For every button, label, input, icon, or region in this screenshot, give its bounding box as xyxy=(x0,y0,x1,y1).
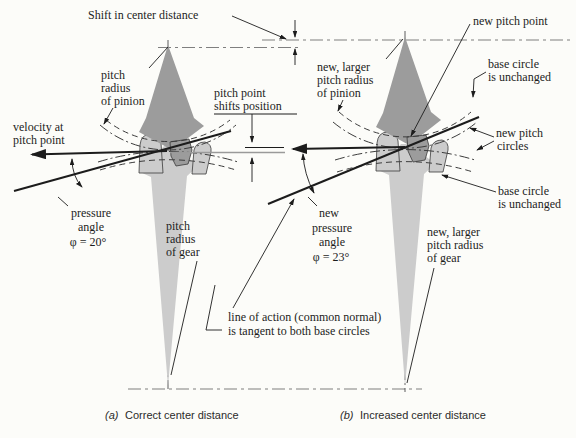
svg-text:φ = 23°: φ = 23° xyxy=(313,250,350,264)
svg-text:pitch radius: pitch radius xyxy=(317,73,374,87)
svg-text:pressure: pressure xyxy=(312,221,352,235)
svg-text:(a): (a) xyxy=(105,409,119,421)
svg-text:pressure: pressure xyxy=(71,206,111,220)
svg-text:Correct center distance: Correct center distance xyxy=(125,409,239,421)
svg-text:new: new xyxy=(319,206,339,220)
svg-text:is unchanged: is unchanged xyxy=(498,197,561,211)
svg-text:velocity at: velocity at xyxy=(13,120,64,134)
svg-text:pitch: pitch xyxy=(166,219,190,233)
caption-a: (a) Correct center distance xyxy=(105,409,239,421)
gear-center-distance-figure: Shift in center distance new pitch point… xyxy=(0,0,576,438)
svg-text:new, larger: new, larger xyxy=(427,225,480,239)
svg-text:pitch point: pitch point xyxy=(13,133,65,147)
caption-b: (b) Increased center distance xyxy=(340,409,486,421)
svg-text:new pitch: new pitch xyxy=(496,126,543,140)
svg-text:angle: angle xyxy=(319,235,345,249)
svg-text:is tangent to both base circle: is tangent to both base circles xyxy=(228,324,370,338)
svg-text:of gear: of gear xyxy=(427,251,461,265)
svg-text:of gear: of gear xyxy=(166,245,200,259)
svg-text:radius: radius xyxy=(166,232,196,246)
svg-text:line of action (common normal): line of action (common normal) xyxy=(228,310,381,324)
shift-in-center-distance-label: Shift in center distance xyxy=(88,8,198,22)
svg-text:of pinion: of pinion xyxy=(317,86,361,100)
svg-text:of pinion: of pinion xyxy=(101,94,145,108)
svg-text:shifts position: shifts position xyxy=(214,99,282,113)
svg-text:base circle: base circle xyxy=(488,57,539,71)
line-of-action-label: line of action (common normal) is tangen… xyxy=(228,310,381,338)
svg-text:circles: circles xyxy=(497,139,529,153)
svg-text:new, larger: new, larger xyxy=(317,60,370,74)
svg-text:is unchanged: is unchanged xyxy=(488,70,551,84)
velocity-label: velocity at pitch point xyxy=(13,120,65,147)
svg-text:radius: radius xyxy=(101,81,131,95)
svg-text:angle: angle xyxy=(78,220,104,234)
svg-text:φ = 20°: φ = 20° xyxy=(70,235,107,249)
svg-text:pitch radius: pitch radius xyxy=(427,238,484,252)
svg-text:(b): (b) xyxy=(340,409,354,421)
svg-text:pitch point: pitch point xyxy=(214,86,266,100)
svg-text:Increased center distance: Increased center distance xyxy=(360,409,486,421)
new-pitch-point-label: new pitch point xyxy=(473,14,548,28)
svg-text:pitch: pitch xyxy=(101,68,125,82)
svg-text:base circle: base circle xyxy=(498,184,549,198)
